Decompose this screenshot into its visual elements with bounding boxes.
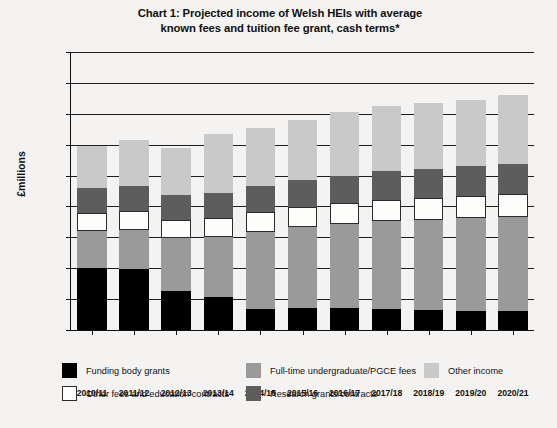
bar-segment-1 [204, 237, 233, 296]
gridline-y-1800 [71, 52, 534, 53]
bar-segment-1 [372, 221, 401, 309]
chart-figure: Chart 1: Projected income of Welsh HEIs … [0, 0, 557, 428]
bar-segment-3 [414, 169, 443, 198]
bar-segment-2 [246, 212, 275, 232]
legend-swatch-icon [424, 363, 439, 378]
legend-item-1[interactable]: Full-time undergraduate/PGCE fees [246, 363, 416, 378]
bar-segment-3 [246, 186, 275, 212]
legend-swatch-icon [246, 363, 261, 378]
bar-segment-1 [161, 238, 190, 291]
bar-segment-3 [77, 188, 106, 213]
y-tick-mark [66, 145, 71, 146]
bar-segment-4 [246, 128, 275, 186]
x-tick-mark [218, 330, 219, 335]
bar-segment-3 [288, 180, 317, 207]
x-tick-mark [513, 330, 514, 335]
bar-segment-2 [414, 198, 443, 220]
bar-segment-4 [414, 103, 443, 169]
bar-segment-0 [456, 311, 485, 330]
legend-swatch-icon [246, 386, 261, 401]
x-tick-mark [260, 330, 261, 335]
bar-2011-12 [119, 140, 148, 330]
legend-item-0[interactable]: Funding body grants [62, 363, 170, 378]
y-tick-mark [66, 237, 71, 238]
bar-segment-2 [288, 207, 317, 227]
y-tick-mark [66, 114, 71, 115]
bar-segment-4 [288, 120, 317, 180]
bar-segment-0 [204, 297, 233, 330]
x-tick-mark [176, 330, 177, 335]
bar-segment-2 [372, 200, 401, 222]
x-tick-mark [429, 330, 430, 335]
bar-segment-2 [330, 203, 359, 224]
bar-segment-2 [77, 213, 106, 232]
bar-segment-4 [161, 148, 190, 195]
bar-segment-3 [372, 171, 401, 200]
plot-area: 02004006008001,0001,2001,4001,6001,80020… [70, 52, 534, 331]
legend-label: Research grants/contracts [270, 389, 377, 399]
bar-segment-1 [330, 224, 359, 308]
bar-segment-2 [161, 220, 190, 239]
x-tick-mark [134, 330, 135, 335]
bar-segment-0 [414, 310, 443, 330]
bar-2014-15 [246, 128, 275, 330]
bar-segment-0 [288, 308, 317, 330]
bar-segment-2 [498, 194, 527, 216]
bar-2015-16 [288, 120, 317, 330]
gridline-y-1600 [71, 83, 534, 84]
bar-segment-0 [77, 268, 106, 330]
bar-segment-4 [456, 100, 485, 166]
bar-segment-2 [204, 218, 233, 237]
y-tick-mark [66, 176, 71, 177]
bar-segment-1 [246, 232, 275, 309]
bar-segment-1 [77, 231, 106, 268]
bar-segment-0 [330, 308, 359, 330]
legend-swatch-icon [62, 363, 77, 378]
legend-item-2[interactable]: Other fees and education contracts [62, 386, 229, 401]
legend-label: Other income [448, 366, 503, 376]
chart-title: Chart 1: Projected income of Welsh HEIs … [60, 6, 500, 36]
chart-title-line-2: known fees and tuition fee grant, cash t… [60, 21, 500, 36]
legend-item-4[interactable]: Other income [424, 363, 503, 378]
bar-2016-17 [330, 112, 359, 330]
bar-segment-1 [414, 220, 443, 310]
y-tick-mark [66, 83, 71, 84]
bar-segment-1 [498, 217, 527, 312]
bar-segment-3 [119, 186, 148, 211]
chart-title-line-1: Chart 1: Projected income of Welsh HEIs … [138, 7, 423, 19]
bar-2019-20 [456, 100, 485, 330]
bar-segment-4 [372, 106, 401, 171]
bar-segment-3 [456, 166, 485, 195]
bar-2020-21 [498, 95, 527, 330]
chart-legend: Funding body grantsOther fees and educat… [62, 362, 542, 410]
bar-segment-1 [456, 218, 485, 311]
legend-label: Funding body grants [86, 366, 170, 376]
bar-segment-1 [288, 227, 317, 307]
legend-item-3[interactable]: Research grants/contracts [246, 386, 377, 401]
bar-segment-2 [119, 211, 148, 230]
y-tick-mark [66, 268, 71, 269]
x-tick-mark [303, 330, 304, 335]
bar-2012-13 [161, 148, 190, 330]
bar-segment-4 [204, 134, 233, 193]
bar-segment-3 [161, 195, 190, 220]
y-tick-mark [66, 52, 71, 53]
x-tick-mark [387, 330, 388, 335]
bar-2018-19 [414, 103, 443, 330]
y-tick-mark [66, 206, 71, 207]
y-axis-title: £millions [15, 129, 27, 219]
bar-segment-3 [204, 193, 233, 218]
bar-segment-0 [119, 269, 148, 330]
bar-segment-0 [161, 291, 190, 330]
bar-segment-1 [119, 230, 148, 269]
bar-segment-0 [372, 309, 401, 330]
y-tick-mark [66, 299, 71, 300]
legend-label: Full-time undergraduate/PGCE fees [270, 366, 416, 376]
bar-segment-4 [330, 112, 359, 175]
bar-segment-4 [77, 146, 106, 188]
x-tick-mark [471, 330, 472, 335]
bar-segment-2 [456, 196, 485, 218]
bar-segment-4 [498, 95, 527, 164]
x-tick-mark [92, 330, 93, 335]
bar-segment-4 [119, 140, 148, 186]
